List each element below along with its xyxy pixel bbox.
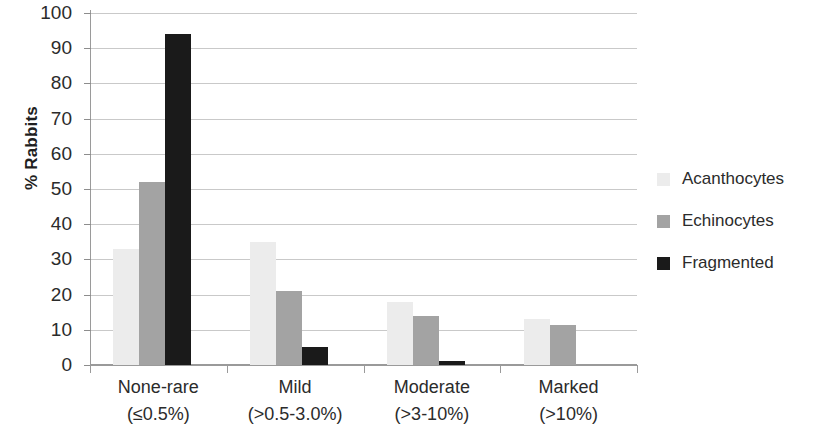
y-tick-label-100: 100: [40, 2, 72, 24]
legend: AcanthocytesEchinocytesFragmented: [657, 158, 821, 284]
category-separator: [90, 365, 91, 373]
bar-acanthocytes-none-rare: [113, 249, 139, 365]
y-tick-label-40: 40: [51, 213, 72, 235]
y-tick-100: 100: [84, 13, 91, 14]
y-tick-20: 20: [84, 295, 91, 296]
bar-fragmented-mild: [302, 347, 328, 365]
legend-label-echinocytes: Echinocytes: [682, 211, 774, 231]
x-axis-label-moderate: Moderate(>3-10%): [364, 374, 501, 428]
y-tick-70: 70: [84, 119, 91, 120]
legend-item-fragmented[interactable]: Fragmented: [657, 242, 821, 284]
category-separator: [227, 365, 228, 373]
y-tick-label-50: 50: [51, 178, 72, 200]
x-label-range: (>10%): [500, 401, 637, 428]
x-axis-label-none-rare: None-rare(≤0.5%): [90, 374, 227, 428]
y-tick-label-30: 30: [51, 248, 72, 270]
legend-label-acanthocytes: Acanthocytes: [682, 169, 784, 189]
category-separator: [637, 365, 638, 373]
y-tick-label-60: 60: [51, 143, 72, 165]
x-axis-label-marked: Marked(>10%): [500, 374, 637, 428]
legend-item-acanthocytes[interactable]: Acanthocytes: [657, 158, 821, 200]
bar-echinocytes-none-rare: [139, 182, 165, 365]
x-label-range: (>0.5-3.0%): [227, 401, 364, 428]
x-label-primary: None-rare: [118, 377, 199, 397]
bar-echinocytes-moderate: [413, 316, 439, 365]
bar-fragmented-moderate: [439, 361, 465, 365]
legend-swatch-echinocytes: [657, 215, 670, 228]
legend-item-echinocytes[interactable]: Echinocytes: [657, 200, 821, 242]
bar-acanthocytes-mild: [250, 242, 276, 365]
y-axis-title: % Rabbits: [22, 88, 42, 208]
y-tick-label-10: 10: [51, 319, 72, 341]
y-tick-90: 90: [84, 48, 91, 49]
x-label-primary: Marked: [539, 377, 599, 397]
y-tick-label-0: 0: [61, 354, 72, 376]
y-tick-50: 50: [84, 189, 91, 190]
x-axis-labels: None-rare(≤0.5%)Mild(>0.5-3.0%)Moderate(…: [90, 374, 637, 436]
y-tick-60: 60: [84, 154, 91, 155]
x-axis-label-mild: Mild(>0.5-3.0%): [227, 374, 364, 428]
plot-area: 0102030405060708090100: [90, 13, 637, 365]
y-tick-label-20: 20: [51, 284, 72, 306]
legend-swatch-fragmented: [657, 257, 670, 270]
bar-chart: % Rabbits 0102030405060708090100 None-ra…: [0, 0, 821, 437]
bar-fragmented-none-rare: [165, 34, 191, 365]
y-tick-label-70: 70: [51, 108, 72, 130]
x-label-primary: Mild: [279, 377, 312, 397]
y-tick-label-80: 80: [51, 72, 72, 94]
legend-swatch-acanthocytes: [657, 173, 670, 186]
x-label-range: (>3-10%): [364, 401, 501, 428]
x-label-range: (≤0.5%): [90, 401, 227, 428]
y-tick-80: 80: [84, 83, 91, 84]
y-tick-30: 30: [84, 259, 91, 260]
bar-acanthocytes-marked: [524, 319, 550, 365]
y-tick-10: 10: [84, 330, 91, 331]
legend-label-fragmented: Fragmented: [682, 253, 774, 273]
y-tick-40: 40: [84, 224, 91, 225]
bar-echinocytes-marked: [550, 325, 576, 365]
bar-echinocytes-mild: [276, 291, 302, 365]
category-separator: [500, 365, 501, 373]
gridline-100: [90, 13, 637, 14]
bar-acanthocytes-moderate: [387, 302, 413, 365]
y-tick-label-90: 90: [51, 37, 72, 59]
x-label-primary: Moderate: [394, 377, 470, 397]
category-separator: [364, 365, 365, 373]
